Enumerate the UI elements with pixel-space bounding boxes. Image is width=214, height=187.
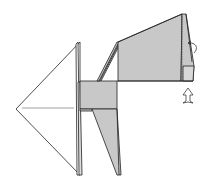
origami-diagram: [0, 0, 214, 187]
neck-line-2: [101, 46, 119, 81]
neck: [118, 14, 182, 81]
front-leg: [92, 109, 121, 175]
body-strip: [80, 109, 92, 111]
body: [80, 81, 117, 109]
head-lower: [183, 66, 194, 81]
push-in-arrow-icon: [183, 88, 193, 103]
neck-line-1: [99, 44, 118, 81]
neck-left: [97, 42, 120, 81]
tail-flap: [16, 42, 80, 175]
